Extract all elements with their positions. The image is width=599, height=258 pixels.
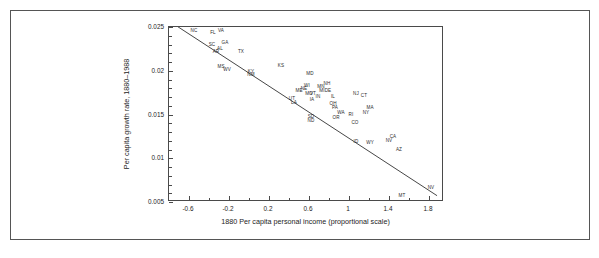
data-point-label: ND xyxy=(308,118,315,123)
data-point-label: NY xyxy=(363,110,370,115)
data-point-label: AR xyxy=(213,49,220,54)
data-point-label: NC xyxy=(191,28,198,33)
data-point-label: CT xyxy=(361,94,367,99)
data-point-label: CO xyxy=(351,121,358,126)
x-tick-label: -0.6 xyxy=(182,205,193,212)
data-point-label: OR xyxy=(332,116,339,121)
y-tick-label: 0.025 xyxy=(136,23,164,30)
data-point-label: MT xyxy=(399,194,406,199)
y-tick-label: 0.015 xyxy=(136,110,164,117)
figure-frame: Per capita growth rate, 1880–1988 1880 P… xyxy=(10,10,590,240)
data-point-label: ME xyxy=(295,89,302,94)
data-point-label: FL xyxy=(210,31,216,36)
data-point-label: IL xyxy=(331,95,335,100)
y-tick-major xyxy=(169,202,173,203)
data-point-label: SC xyxy=(209,43,216,48)
data-point-label: NJ xyxy=(353,91,359,96)
x-tick-label: 0.6 xyxy=(304,205,313,212)
scatter-data-layer: NCFLVASCGAALARTXKSMSWVKYNMMDWINHMNNEMEMI… xyxy=(169,27,442,200)
y-tick-label: 0.01 xyxy=(136,154,164,161)
data-point-label: TX xyxy=(238,49,244,54)
data-point-label: RI xyxy=(349,112,354,117)
y-tick-label: 0.005 xyxy=(136,198,164,205)
data-point-label: WY xyxy=(366,140,374,145)
data-point-label: AZ xyxy=(396,147,402,152)
data-point-label: IA xyxy=(310,97,315,102)
data-point-label: NV xyxy=(428,186,435,191)
x-tick-label: 1.8 xyxy=(424,205,433,212)
y-tick-label: 0.02 xyxy=(136,66,164,73)
x-tick-label: 1.4 xyxy=(384,205,393,212)
data-point-label: MD xyxy=(306,72,313,77)
data-point-label: WV xyxy=(223,68,231,73)
data-point-label: KS xyxy=(278,63,284,68)
x-tick-label: 0.2 xyxy=(264,205,273,212)
y-axis-title: Per capita growth rate, 1880–1988 xyxy=(122,58,131,168)
regression-line xyxy=(169,27,442,200)
data-point-label: LA xyxy=(291,101,297,106)
data-point-label: NV xyxy=(386,138,393,143)
data-point-label: GA xyxy=(222,40,229,45)
plot-area: NCFLVASCGAALARTXKSMSWVKYNMMDWINHMNNEMEMI… xyxy=(168,26,443,201)
data-point-label: NM xyxy=(247,73,254,78)
x-tick-label: -0.2 xyxy=(222,205,233,212)
data-point-label: IN xyxy=(316,95,321,100)
data-point-label: ID xyxy=(354,139,359,144)
data-point-label: DE xyxy=(325,89,332,94)
x-tick-label: 1 xyxy=(346,205,350,212)
x-axis-title: 1880 Per capita personal income (proport… xyxy=(221,217,390,226)
data-point-label: VA xyxy=(218,29,224,34)
